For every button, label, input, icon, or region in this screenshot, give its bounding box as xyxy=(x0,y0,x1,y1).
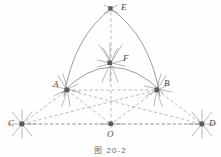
point-label-E: E xyxy=(121,3,127,12)
segment-B-D xyxy=(157,90,202,124)
segment-C-A xyxy=(22,90,67,124)
point-label-B: B xyxy=(164,79,170,88)
arc-B-E xyxy=(111,9,160,96)
arc-A-F-B xyxy=(62,67,163,93)
segment-B-O xyxy=(111,90,157,124)
point-B xyxy=(154,87,159,92)
point-label-A: A xyxy=(53,80,59,89)
solid-arc-group xyxy=(62,9,163,96)
construction-marks-group xyxy=(8,5,216,138)
point-label-D: D xyxy=(209,119,216,128)
dashed-segment-group xyxy=(22,90,202,124)
point-C xyxy=(19,121,24,126)
geometry-figure: E F A B C O D 图 20-2 xyxy=(0,0,221,157)
point-E xyxy=(108,6,112,10)
point-label-C: C xyxy=(8,119,14,128)
point-label-F: F xyxy=(123,54,129,63)
arc-A-E xyxy=(64,9,111,96)
figure-caption: 图 20-2 xyxy=(0,144,221,155)
point-A xyxy=(64,87,69,92)
point-label-O: O xyxy=(107,130,114,139)
point-D xyxy=(199,121,204,126)
point-F xyxy=(107,60,112,65)
point-O xyxy=(109,122,113,126)
